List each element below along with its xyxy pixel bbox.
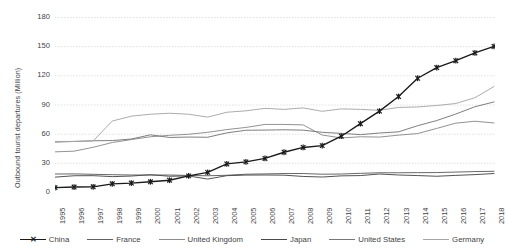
legend-swatch-icon <box>329 235 355 244</box>
legend-label: Germany <box>452 235 484 244</box>
series-china <box>55 44 495 191</box>
x-axis-tick-label: 2007 <box>287 208 296 224</box>
y-axis-tick-label: 90 <box>20 101 50 109</box>
legend-label: Japan <box>290 235 311 244</box>
y-axis-tick-label: 150 <box>20 42 50 50</box>
x-axis-tick-label: 2002 <box>192 208 201 224</box>
series-united-states <box>55 102 494 142</box>
plot-svg <box>55 17 495 192</box>
y-axis-tick-label: 180 <box>20 13 50 21</box>
y-axis-title-wrap: Outbound tourist departures (Million) <box>0 0 16 205</box>
x-axis-tick-label: 2008 <box>306 208 315 224</box>
x-axis-tick-label: 2000 <box>153 208 162 224</box>
x-axis-tick-label: 2010 <box>344 208 353 224</box>
x-axis-tick-label: 2006 <box>268 208 277 224</box>
legend-item-germany[interactable]: Germany <box>423 235 484 244</box>
legend-label: United States <box>358 235 405 244</box>
plot-area <box>55 17 495 192</box>
series-united-kingdom <box>55 121 494 152</box>
x-axis-tick-label: 1997 <box>96 208 105 224</box>
x-axis-tick-label: 2009 <box>325 208 334 224</box>
legend-marker-x-icon: ✕ <box>30 236 37 243</box>
legend-label: France <box>116 235 140 244</box>
x-axis-tick-label: 1999 <box>134 208 143 224</box>
x-axis-tick-label: 1995 <box>58 208 67 224</box>
x-axis-tick-label: 1996 <box>77 208 86 224</box>
x-axis-tick-label: 2003 <box>211 208 220 224</box>
series-germany <box>55 87 494 142</box>
x-axis-tick-label: 2001 <box>173 208 182 224</box>
legend-item-united-states[interactable]: United States <box>329 235 405 244</box>
legend-swatch-icon: ✕ <box>20 235 46 244</box>
legend-swatch-icon <box>261 235 287 244</box>
x-axis-tick-label: 2004 <box>230 208 239 224</box>
gridlines <box>55 18 495 193</box>
x-axis-tick-label: 1998 <box>115 208 124 224</box>
legend-swatch-icon <box>159 235 185 244</box>
y-axis-tick-label: 120 <box>20 71 50 79</box>
legend-label: United Kingdom <box>188 235 243 244</box>
legend-swatch-icon <box>87 235 113 244</box>
legend-label: China <box>49 235 69 244</box>
y-axis-tick-label: 30 <box>20 159 50 167</box>
x-axis-tick-label: 2005 <box>249 208 258 224</box>
x-axis-tick-label: 2017 <box>478 208 487 224</box>
chart-legend: ✕ChinaFranceUnited KingdomJapanUnited St… <box>0 228 504 250</box>
x-axis-ticks: 1995199619971998199920002001200220032004… <box>55 196 495 226</box>
legend-swatch-icon <box>423 235 449 244</box>
x-axis-tick-label: 2013 <box>402 208 411 224</box>
x-axis-tick-label: 2018 <box>497 208 506 224</box>
legend-item-united-kingdom[interactable]: United Kingdom <box>159 235 243 244</box>
y-axis-tick-label: 60 <box>20 130 50 138</box>
legend-item-china[interactable]: ✕China <box>20 235 69 244</box>
x-axis-tick-label: 2011 <box>363 208 372 224</box>
x-axis-tick-label: 2016 <box>459 208 468 224</box>
y-axis-ticks: 0306090120150180 <box>18 0 50 205</box>
legend-item-japan[interactable]: Japan <box>261 235 311 244</box>
y-axis-tick-label: 0 <box>20 188 50 196</box>
x-axis-tick-label: 2014 <box>421 208 430 224</box>
x-axis-tick-label: 2015 <box>440 208 449 224</box>
legend-item-france[interactable]: France <box>87 235 140 244</box>
x-axis-tick-label: 2012 <box>382 208 391 224</box>
